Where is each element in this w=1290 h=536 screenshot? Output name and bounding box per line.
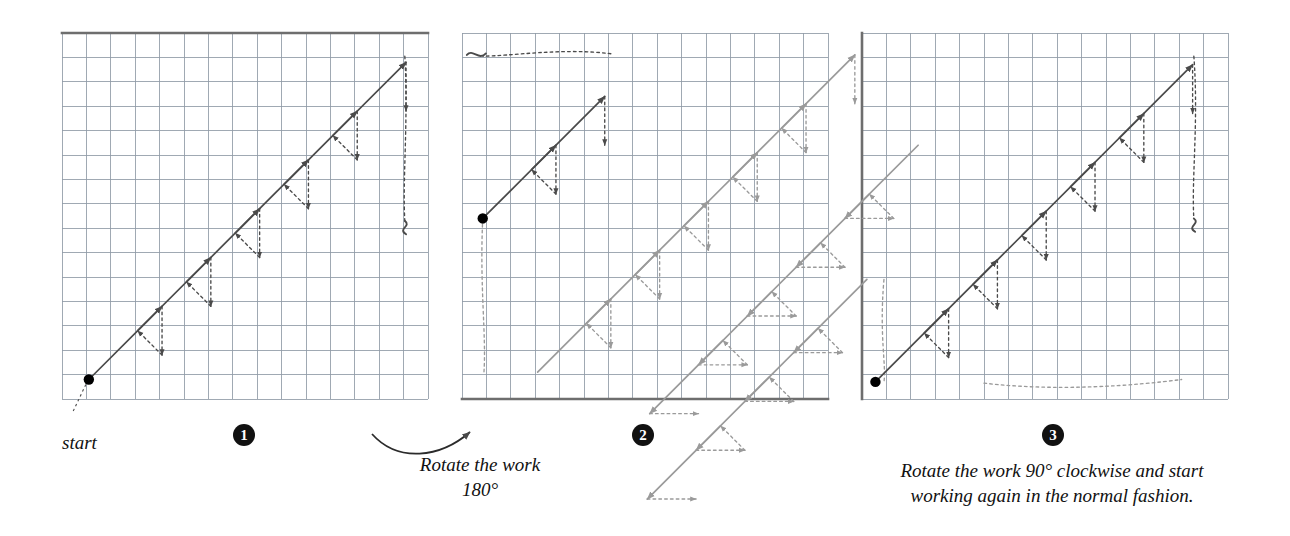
start-dot	[84, 374, 94, 384]
step-badge-3: 3	[1042, 424, 1064, 446]
start-dot	[478, 213, 488, 223]
step-badge-1: 1	[233, 424, 255, 446]
step-badge-2: 2	[632, 424, 654, 446]
caption-rotate-90: Rotate the work 90° clockwise and start …	[852, 458, 1252, 508]
stitch-diagram-figure	[0, 0, 1290, 536]
start-dot	[870, 377, 880, 387]
start-label: start	[62, 432, 97, 454]
figure-background	[0, 0, 1290, 536]
caption-rotate-180: Rotate the work 180°	[355, 452, 605, 502]
